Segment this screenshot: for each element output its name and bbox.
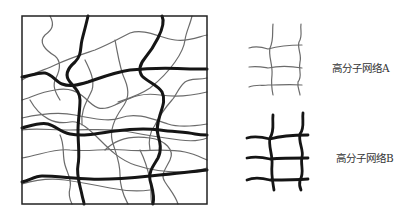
network-b-chains: [22, 16, 207, 204]
legend-network-b-grid: [247, 113, 308, 190]
legend-network-a-grid: [249, 24, 302, 95]
legend-label-network-b: 高分子网络B: [336, 152, 394, 164]
ipn-diagram: [0, 0, 408, 216]
legend-label-network-a: 高分子网络A: [332, 62, 390, 74]
